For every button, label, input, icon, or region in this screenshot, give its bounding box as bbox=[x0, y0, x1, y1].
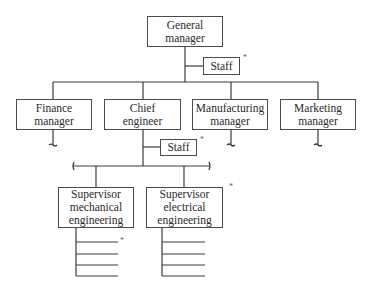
node-marketing-manager: Marketing manager bbox=[280, 99, 356, 130]
node-finance-manager: Finance manager bbox=[16, 99, 92, 130]
node-label: Supervisor electrical engineering bbox=[157, 188, 211, 227]
asterisk-staff-chief: * bbox=[200, 135, 204, 144]
asterisk-staff-gm: * bbox=[243, 53, 247, 62]
node-label: Staff bbox=[167, 141, 189, 154]
node-supervisor-electrical: Supervisor electrical engineering bbox=[146, 187, 223, 228]
asterisk-supervisor-electrical: * bbox=[229, 182, 233, 191]
node-label: Staff bbox=[210, 60, 232, 73]
node-staff-chief: Staff bbox=[160, 139, 197, 156]
break-mark-finance bbox=[49, 144, 57, 146]
node-label: Manufacturing manager bbox=[196, 102, 264, 128]
asterisk-mech-subline: * bbox=[120, 236, 124, 245]
node-supervisor-mechanical: Supervisor mechanical engineering bbox=[58, 187, 134, 228]
node-manufacturing-manager: Manufacturing manager bbox=[192, 99, 268, 130]
break-mark-marketing bbox=[314, 144, 322, 146]
node-label: Marketing manager bbox=[294, 102, 342, 128]
node-general-manager: General manager bbox=[147, 16, 223, 47]
node-label: Chief engineer bbox=[123, 102, 163, 128]
node-label: Finance manager bbox=[34, 102, 74, 128]
break-mark-manufacturing bbox=[227, 144, 235, 146]
node-staff-gm: Staff bbox=[203, 57, 240, 75]
node-chief-engineer: Chief engineer bbox=[104, 99, 181, 130]
node-label: Supervisor mechanical engineering bbox=[69, 188, 123, 227]
node-label: General manager bbox=[165, 19, 205, 45]
